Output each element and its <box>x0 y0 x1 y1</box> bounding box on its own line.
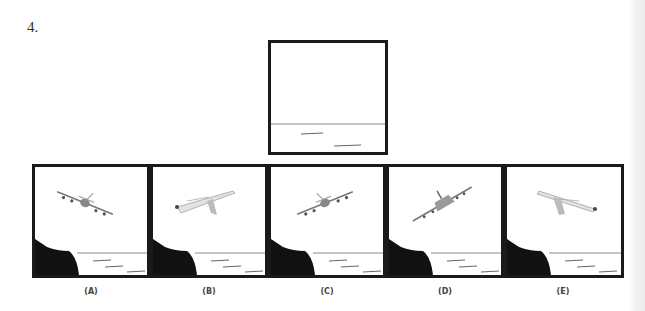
cliff-shape <box>153 239 197 275</box>
water-ripple <box>447 260 465 261</box>
option-e-figure[interactable] <box>504 164 624 278</box>
option-a-label: (A) <box>32 287 150 296</box>
option-e-label: (E) <box>504 287 622 296</box>
water-ripple <box>334 145 361 146</box>
option-c-figure[interactable] <box>268 164 386 278</box>
water-ripple <box>301 133 323 134</box>
cliff-shape <box>35 239 79 275</box>
cliff-shape <box>389 239 433 275</box>
question-figure <box>268 40 388 155</box>
airplane-icon <box>293 181 355 219</box>
airplane-icon <box>55 181 117 219</box>
option-b-figure[interactable] <box>150 164 268 278</box>
question-number: 4. <box>27 19 38 36</box>
water-ripple <box>127 271 145 272</box>
page-edge-shade <box>630 0 645 311</box>
water-ripple <box>245 271 263 272</box>
water-ripple <box>223 266 241 267</box>
airplane-icon <box>537 191 597 215</box>
water-ripple <box>341 266 359 267</box>
water-ripple <box>93 260 111 261</box>
water-ripple <box>363 271 381 272</box>
water-ripple <box>211 260 229 261</box>
water-ripple <box>329 260 347 261</box>
water-ripple <box>459 266 477 267</box>
airplane-icon <box>175 191 235 215</box>
water-ripple <box>105 266 123 267</box>
water-ripple <box>565 260 583 261</box>
airplane-icon <box>406 175 474 225</box>
option-a-figure[interactable] <box>32 164 150 278</box>
water-ripple <box>481 271 499 272</box>
water-ripple <box>599 271 617 272</box>
option-d-label: (D) <box>386 287 504 296</box>
option-b-label: (B) <box>150 287 268 296</box>
option-c-label: (C) <box>268 287 386 296</box>
cliff-shape <box>507 239 551 275</box>
water-ripple <box>577 266 595 267</box>
cliff-shape <box>271 239 315 275</box>
option-d-figure[interactable] <box>386 164 504 278</box>
